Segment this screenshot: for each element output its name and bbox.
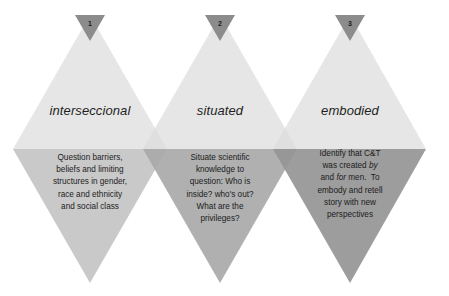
description-2-line: What are the: [170, 201, 270, 213]
text-fragment: men. To: [346, 173, 380, 182]
description-2-line: inside? who's out?: [170, 189, 270, 201]
description-1-line: race and ethnicity: [40, 189, 140, 201]
description-3-line: Identify that C&T: [300, 148, 400, 160]
description-2-line: question: Who is: [170, 176, 270, 188]
diagram-canvas: 1 2 3 interseccional situated embodied Q…: [0, 0, 449, 296]
description-1-line: structures in gender,: [40, 176, 140, 188]
text-fragment: and: [320, 173, 336, 182]
description-2-line: knowledge to: [170, 164, 270, 176]
description-2-line: privileges?: [170, 213, 270, 225]
heading-situated: situated: [145, 103, 295, 118]
badge-number-3: 3: [340, 20, 360, 27]
description-2: Situate scientific knowledge to question…: [170, 152, 270, 225]
badge-number-1: 1: [80, 20, 100, 27]
description-1: Question barriers, beliefs and limiting …: [40, 152, 140, 213]
description-3-line: embody and retell: [300, 185, 400, 197]
description-1-line: beliefs and limiting: [40, 164, 140, 176]
description-3: Identify that C&T was created by and for…: [300, 148, 400, 221]
description-2-line: Situate scientific: [170, 152, 270, 164]
heading-interseccional: interseccional: [15, 103, 165, 118]
description-3-line: was created by: [300, 160, 400, 172]
emphasis-by: by: [369, 161, 378, 170]
text-fragment: was created: [322, 161, 368, 170]
description-3-line: story with new: [300, 197, 400, 209]
heading-embodied: embodied: [275, 103, 425, 118]
emphasis-for: for: [336, 173, 346, 182]
description-1-line: and social class: [40, 201, 140, 213]
badge-number-2: 2: [210, 20, 230, 27]
description-3-line: perspectives: [300, 209, 400, 221]
description-3-line: and for men. To: [300, 172, 400, 184]
description-1-line: Question barriers,: [40, 152, 140, 164]
